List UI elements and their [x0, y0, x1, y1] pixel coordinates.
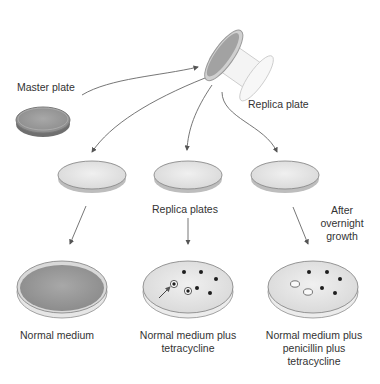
label-line: growth — [317, 230, 367, 243]
label-line: Normal medium plus — [133, 329, 243, 342]
master-plate — [16, 107, 70, 137]
arrow-down-1 — [70, 206, 86, 244]
replica-plate-3 — [251, 161, 319, 193]
replica-block — [198, 25, 280, 107]
label-after-overnight-growth: After overnight growth — [317, 204, 367, 243]
label-normal-medium: Normal medium — [20, 329, 94, 342]
label-line: overnight — [317, 217, 367, 230]
arrow-master-to-block — [82, 67, 198, 95]
replica-plate-2 — [154, 161, 222, 193]
label-master-plate: Master plate — [17, 81, 75, 94]
label-tetracycline: Normal medium plus tetracycline — [133, 329, 243, 355]
label-line: Normal medium plus — [259, 329, 369, 342]
diagram-graphics — [0, 0, 380, 384]
label-penicillin-tetracycline: Normal medium plus penicillin plus tetra… — [259, 329, 369, 368]
label-line: penicillin plus — [259, 342, 369, 355]
plate-tetracycline — [143, 261, 233, 318]
arrow-down-3 — [293, 207, 308, 244]
replica-plate-1 — [58, 161, 126, 193]
arrow-to-replica-2 — [187, 85, 212, 150]
label-line: tetracycline — [133, 342, 243, 355]
label-line: After — [317, 204, 367, 217]
label-replica-plates: Replica plates — [152, 203, 218, 216]
label-line: tetracycline — [259, 355, 369, 368]
plate-penicillin-tetracycline — [268, 261, 358, 318]
replica-plating-diagram: Master plate Replica plate Replica plate… — [0, 0, 380, 384]
label-replica-plate: Replica plate — [248, 98, 309, 111]
plate-normal-medium — [17, 261, 107, 318]
